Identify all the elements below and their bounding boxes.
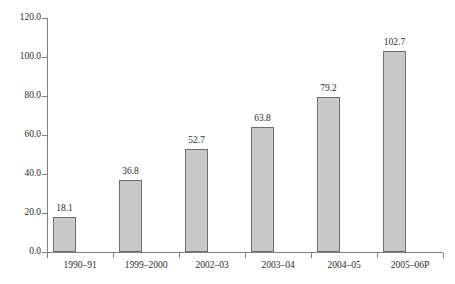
bar-value-label: 102.7 [375, 38, 415, 48]
bar-value-label: 79.2 [309, 84, 349, 94]
x-axis-tick [47, 253, 48, 258]
bar-value-label: 36.8 [111, 167, 151, 177]
y-axis-tick [42, 96, 48, 97]
x-axis-category-label: 2005–06P [377, 261, 443, 271]
bar-chart: 0.020.040.060.080.0100.0120.0 18.136.852… [0, 0, 455, 284]
x-axis-tick [113, 253, 114, 258]
bar [53, 217, 76, 252]
y-axis-tick [42, 213, 48, 214]
x-axis-tick [311, 253, 312, 258]
y-axis-tick [42, 18, 48, 19]
y-axis-tick-label: 40.0 [0, 169, 41, 179]
x-axis-tick [245, 253, 246, 258]
y-axis-tick-label: 20.0 [0, 208, 41, 218]
bar [185, 149, 208, 252]
y-axis-tick-label: 0.0 [0, 247, 41, 257]
bar [119, 180, 142, 252]
bar [251, 127, 274, 252]
x-axis-category-label: 2004–05 [311, 261, 377, 271]
bar-value-label: 52.7 [177, 136, 217, 146]
y-axis-tick [42, 135, 48, 136]
y-axis-tick-label: 60.0 [0, 130, 41, 140]
x-axis-tick [377, 253, 378, 258]
x-axis-category-label: 2002–03 [179, 261, 245, 271]
y-axis-tick-label: 100.0 [0, 52, 41, 62]
y-axis-tick [42, 174, 48, 175]
bar-value-label: 63.8 [243, 114, 283, 124]
bar [317, 97, 340, 252]
x-axis-tick [443, 253, 444, 258]
x-axis-category-label: 1990–91 [47, 261, 113, 271]
y-axis-tick-label: 120.0 [0, 13, 41, 23]
x-axis-tick [179, 253, 180, 258]
y-axis-tick-label: 80.0 [0, 91, 41, 101]
x-axis-category-label: 1999–2000 [113, 261, 179, 271]
y-axis-tick [42, 57, 48, 58]
bar-value-label: 18.1 [45, 204, 85, 214]
bar [383, 51, 406, 252]
x-axis-category-label: 2003–04 [245, 261, 311, 271]
